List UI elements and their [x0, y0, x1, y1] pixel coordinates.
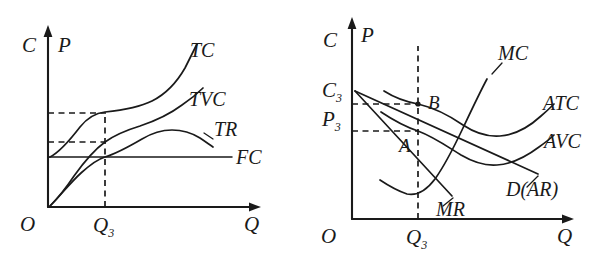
right-label-mc: MC [497, 42, 529, 64]
left-q3-marker: Q3 [93, 213, 114, 240]
right-point-label-b: B [428, 92, 440, 113]
left-leader-tr [204, 133, 213, 139]
left-label-tc: TC [190, 39, 215, 61]
right-y-marker-p3-sub: 3 [334, 120, 341, 134]
right-q3-base: Q [406, 225, 421, 249]
right-y-marker-p3-base: P [321, 107, 335, 131]
left-x-axis-label: Q [244, 212, 259, 236]
left-x-axis-arrowhead [249, 203, 261, 212]
left-y-axis-label-p: P [57, 33, 71, 57]
left-q3-base: Q [93, 213, 108, 237]
right-y-marker-p3: P3 [321, 107, 341, 134]
left-label-fc: FC [235, 146, 262, 168]
left-panel-total-curves: C P O Q Q3 TC TVC TR FC [0, 0, 296, 258]
right-leader-mc [492, 63, 502, 74]
right-y-marker-c3-sub: 3 [335, 91, 342, 105]
left-label-tr: TR [214, 118, 237, 140]
right-x-axis-label: Q [557, 224, 572, 248]
right-label-mr: MR [435, 198, 465, 220]
right-point-label-a: A [397, 135, 411, 156]
right-label-atc: ATC [541, 92, 580, 114]
right-y-marker-c3-base: C [322, 78, 337, 102]
left-y-axis-arrowhead [44, 25, 53, 37]
right-x-axis-arrowhead [562, 215, 574, 224]
economics-figure: C P O Q Q3 TC TVC TR FC [0, 0, 591, 258]
right-y-axis-label-p: P [360, 23, 374, 47]
left-origin-label: O [20, 212, 35, 236]
left-label-tvc: TVC [189, 88, 226, 110]
right-label-d-ar: D(AR) [505, 178, 559, 201]
left-curve-tc [50, 44, 197, 157]
right-y-axis-arrowhead [348, 17, 357, 29]
right-point-b-dot [415, 101, 420, 106]
right-q3-marker: Q3 [406, 225, 427, 252]
right-y-marker-c3: C3 [322, 78, 342, 105]
right-label-avc: AVC [542, 130, 581, 152]
left-q3-sub: 3 [107, 226, 114, 240]
right-panel-per-unit-curves: C P O Q C3 P3 Q3 B A MC ATC AVC D(AR) MR [295, 0, 591, 258]
right-q3-sub: 3 [420, 238, 427, 252]
left-y-axis-label-c: C [22, 33, 37, 57]
right-origin-label: O [321, 224, 336, 248]
right-y-axis-label-c: C [323, 28, 338, 52]
